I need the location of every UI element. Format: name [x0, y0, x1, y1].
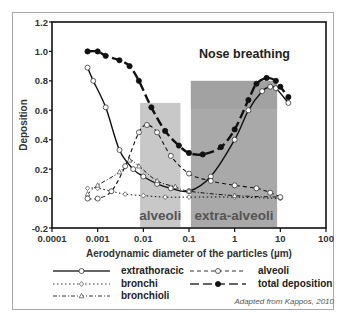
x-tick-label: 0.1 [182, 233, 196, 244]
x-tick-label: 0.0001 [37, 233, 67, 244]
x-tick-label: 100 [318, 233, 334, 244]
source-credit: Adapted from Kappos, 2010 [233, 297, 334, 306]
y-tick-label: 0.2 [35, 164, 48, 175]
legend-label: extrathoracic [121, 265, 184, 276]
legend-label: alveoli [258, 265, 289, 276]
legend-item-alveoli: alveoli [190, 265, 289, 276]
x-tick-label: 1 [232, 233, 238, 244]
x-axis-label: Aerodynamic diameter of the particles (µ… [86, 248, 292, 259]
y-tick-label: 1.2 [35, 17, 48, 28]
y-tick-label: 0.0 [35, 193, 48, 204]
legend-item-bronchi: bronchi [53, 278, 158, 289]
region-label: extra-alveoli [195, 208, 274, 223]
legend-label: total deposition [258, 278, 332, 289]
legend: extrathoracicbronchibronchiolialveolitot… [53, 265, 335, 306]
y-tick-label: 0.4 [35, 134, 49, 145]
legend-label: bronchi [121, 278, 158, 289]
x-tick-label: 0.01 [134, 233, 153, 244]
y-tick-label: 1.0 [35, 46, 48, 57]
y-tick-label: 0.6 [35, 105, 48, 116]
y-axis-label: Deposition [18, 99, 29, 151]
legend-item-bronchioli: bronchioli [53, 290, 170, 301]
legend-item-total-deposition: total deposition [190, 278, 332, 289]
y-tick-label: 0.8 [35, 75, 48, 86]
chart-title: Nose breathing [199, 47, 290, 61]
deposition-chart: alveoliextra-alveoliNose breathing-0.20.… [0, 0, 350, 320]
legend-item-extrathoracic: extrathoracic [53, 265, 184, 276]
legend-label: bronchioli [121, 290, 170, 301]
y-tick-label: -0.2 [32, 223, 48, 234]
region-label: alveoli [139, 208, 181, 223]
x-tick-label: 0.001 [86, 233, 110, 244]
x-tick-label: 10 [275, 233, 286, 244]
